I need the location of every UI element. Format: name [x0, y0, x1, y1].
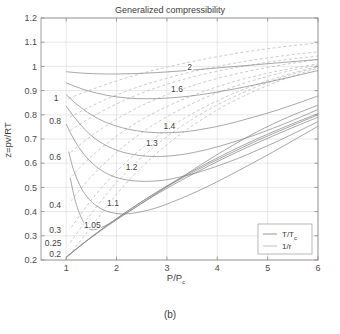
one-over-r-label: 0.3	[49, 225, 61, 235]
one-over-r-labels: 110.80.80.60.60.40.40.30.30.250.250.20.2	[45, 93, 62, 259]
one-over-r-label: 0.2	[49, 249, 61, 259]
y-tick-label: 0.9	[24, 86, 37, 96]
isotherm-label: 1.3	[146, 138, 158, 148]
one-over-r-label: 1	[54, 93, 59, 103]
y-tick-label: 1	[32, 62, 37, 72]
one-over-r-curve	[70, 52, 318, 117]
isotherm-label: 1.2	[126, 162, 138, 172]
one-over-r-label: 0.25	[45, 238, 62, 248]
chart-title: Generalized compressibility	[115, 5, 226, 15]
one-over-r-curve	[70, 56, 318, 131]
y-tick-label: 0.4	[24, 207, 37, 217]
one-over-r-label: 0.8	[49, 116, 61, 126]
figure-panel: 110.80.80.60.60.40.40.30.30.250.250.20.2…	[0, 0, 340, 334]
x-axis-label-subscript: c	[182, 279, 185, 285]
y-tick-label: 0.6	[24, 158, 37, 168]
legend-label: 1/r	[282, 242, 292, 251]
x-tick-label: 4	[215, 263, 220, 273]
chart-legend: T/Tc1/r	[258, 224, 312, 254]
x-axis-label-text: P/P	[167, 272, 182, 283]
x-tick-label: 5	[265, 263, 270, 273]
isotherm-curve	[66, 71, 318, 99]
legend-label-text: 1/r	[282, 242, 292, 251]
y-tick-label: 0.2	[24, 255, 37, 265]
isotherm-label: 1.6	[171, 84, 183, 94]
legend-label-subscript: c	[294, 235, 297, 241]
y-axis-label: z=pv/RT	[2, 122, 13, 158]
legend-label-text: T/T	[282, 230, 294, 239]
isotherm-label: 1.1	[107, 198, 119, 208]
x-tick-label: 1	[64, 263, 69, 273]
y-tick-label: 0.5	[24, 183, 37, 193]
x-tick-label: 6	[315, 263, 320, 273]
y-tick-label: 1.2	[24, 13, 37, 23]
one-over-r-label: 0.4	[49, 200, 61, 210]
isotherm-label: 2	[187, 62, 192, 72]
isotherm-label: 1.4	[164, 121, 176, 131]
one-over-r-curve	[70, 67, 318, 243]
compressibility-chart: 110.80.80.60.60.40.40.30.30.250.250.20.2…	[0, 0, 340, 334]
y-tick-label: 0.3	[24, 231, 37, 241]
one-over-r-label: 0.6	[49, 152, 61, 162]
figure-caption: (b)	[164, 309, 176, 320]
isotherm-labels: 221.61.61.41.41.31.31.21.21.11.11.051.05	[84, 62, 192, 230]
y-tick-label: 0.7	[24, 134, 37, 144]
one-over-r-curve	[71, 60, 318, 153]
x-axis-label: P/Pc	[167, 272, 185, 285]
x-tick-label: 2	[114, 263, 119, 273]
y-tick-label: 1.1	[24, 37, 37, 47]
y-tick-label: 0.8	[24, 110, 37, 120]
isotherm-label: 1.05	[84, 220, 101, 230]
